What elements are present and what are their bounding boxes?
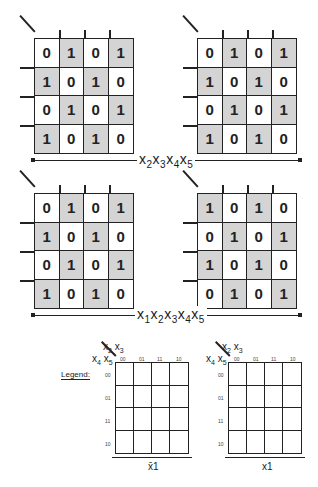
kmap-cell: 0 [109,68,134,97]
legend-row-header: 00 [105,372,111,378]
kmap-cell: 0 [247,96,272,125]
kmap-cell: 0 [109,125,134,154]
kmap-cell: 1 [223,223,248,252]
col-tick [84,185,86,193]
kmap-cell: 0 [35,194,60,223]
row-tick [20,222,34,224]
kmap-cell: 0 [35,251,60,280]
row-tick [183,251,197,253]
legend-cell [229,386,247,409]
legend-title: Legend: [61,370,90,380]
kmap-cell: 0 [60,68,85,97]
legend-cell [265,431,283,454]
row-tick [20,96,34,98]
kmap-cell: 1 [60,194,85,223]
col-tick [84,30,86,38]
kmap-cell: 1 [35,125,60,154]
row-tick [20,67,34,69]
legend-cell [152,408,170,431]
legend-cell [247,363,265,386]
col-tick [247,30,249,38]
kmap-cell: 0 [84,251,109,280]
kmap-cell: 0 [247,223,272,252]
kmap-diagonal [183,170,199,187]
kmap-cell: 0 [272,68,297,97]
kmap-cell: 1 [247,194,272,223]
kmap-cell: 1 [60,39,85,68]
legend-cell [170,431,188,454]
kmap-cell: 1 [109,39,134,68]
kmap-grid: 0101101001011010 [197,38,297,154]
legend-cell [229,408,247,431]
kmap-cell: 0 [35,39,60,68]
legend-cell [229,431,247,454]
kmap-bottom-right: 1010010110100101 [197,193,297,309]
row-tick [20,251,34,253]
kmap-cell: 1 [247,125,272,154]
bottom-span-label: x1x2x3x4x5 [135,306,207,325]
legend-cell [283,408,301,431]
kmap-cell: 1 [60,251,85,280]
kmap-cell: 1 [272,39,297,68]
kmap-cell: 0 [35,96,60,125]
col-tick [222,30,224,38]
top-span-label: x2x3x4x5 [137,151,195,170]
kmap-grid: 1010010110100101 [197,193,297,309]
kmap-cell: 0 [109,280,134,309]
kmap-cell: 1 [247,68,272,97]
legend-brace [112,457,192,458]
kmap-cell: 0 [60,280,85,309]
kmap-cell: 1 [109,251,134,280]
kmap-cell: 0 [223,194,248,223]
col-tick [109,185,111,193]
kmap-cell: 0 [84,194,109,223]
kmap-cell: 0 [198,96,223,125]
kmap-cell: 1 [35,223,60,252]
span-endpoint [298,158,302,162]
legend-cell [116,408,134,431]
kmap-cell: 0 [84,39,109,68]
kmap-top-left: 0101101001011010 [34,38,134,154]
kmap-cell: 0 [198,223,223,252]
legend-brace [225,457,305,458]
kmap-cell: 1 [223,96,248,125]
kmap-cell: 0 [223,251,248,280]
kmap-cell: 0 [247,39,272,68]
legend-row-header: 10 [105,441,111,447]
kmap-grid: 0101101001011010 [34,38,134,154]
col-tick [272,30,274,38]
kmap-diagonal [20,170,36,187]
row-tick [183,222,197,224]
legend-row-header: 11 [218,418,223,424]
legend-cell [247,431,265,454]
kmap-cell: 1 [223,39,248,68]
kmap-cell: 0 [247,280,272,309]
legend-grid-left [115,362,189,454]
col-tick [222,185,224,193]
legend-row-header: 10 [218,441,224,447]
legend-cell [116,363,134,386]
col-tick [59,30,61,38]
kmap-cell: 1 [223,280,248,309]
kmap-cell: 1 [198,68,223,97]
kmap-cell: 0 [60,223,85,252]
row-tick [183,67,197,69]
kmap-cell: 1 [84,223,109,252]
kmap-cell: 0 [84,96,109,125]
legend-row-var: x4 x5 [206,353,227,366]
kmap-cell: 1 [109,96,134,125]
row-tick [183,96,197,98]
kmap-cell: 0 [223,125,248,154]
legend-cell [152,363,170,386]
kmap-cell: 1 [247,251,272,280]
legend-cell [152,386,170,409]
col-tick [109,30,111,38]
kmap-cell: 1 [84,68,109,97]
legend-cell [134,431,152,454]
legend-cell [116,431,134,454]
kmap-diagonal [183,15,199,32]
col-tick [272,185,274,193]
legend-cell [152,431,170,454]
kmap-diagonal [20,15,36,32]
kmap-cell: 1 [84,125,109,154]
